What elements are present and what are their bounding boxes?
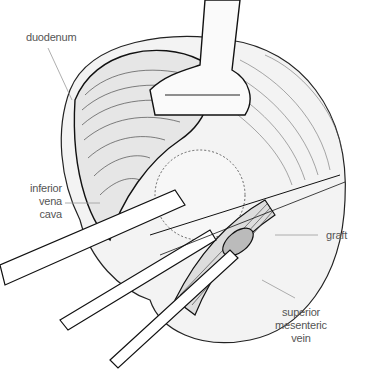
label-inferior-vena-cava: inferior vena cava	[28, 182, 62, 221]
label-smv-line3: vein	[272, 332, 330, 345]
label-graft: graft	[326, 229, 347, 242]
label-ivc-line2: vena	[28, 195, 62, 208]
label-smv-line2: mesenteric	[272, 319, 330, 332]
label-duodenum: duodenum	[26, 31, 76, 44]
label-smv-line1: superior	[272, 306, 330, 319]
label-ivc-line3: cava	[28, 208, 62, 221]
label-superior-mesenteric-vein: superior mesenteric vein	[272, 306, 330, 345]
label-ivc-line1: inferior	[28, 182, 62, 195]
